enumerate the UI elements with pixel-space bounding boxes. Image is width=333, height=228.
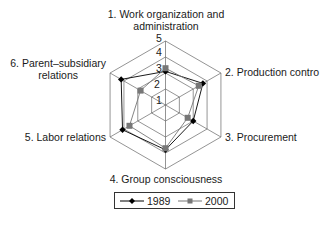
diamond-marker-icon — [120, 197, 144, 205]
tick-label-3: 3 — [156, 63, 162, 74]
axis-label-line: 6. Parent–subsidiary — [10, 57, 106, 69]
axis-label-line: relations — [10, 69, 106, 81]
axis-label-line: 1. Work organization and — [95, 8, 237, 20]
legend-item-2000: 2000 — [178, 194, 228, 207]
square-marker-icon — [178, 197, 202, 205]
axis-label-procurement: 3. Procurement — [225, 131, 297, 143]
axis-label-labor-relations: 5. Labor relations — [25, 131, 106, 143]
legend-item-1989: 1989 — [120, 194, 170, 207]
axis-label-work-organization: 1. Work organization and administration — [95, 8, 237, 32]
tick-label-1: 1 — [156, 95, 162, 106]
tick-label-2: 2 — [154, 79, 160, 90]
chart-legend: 1989 2000 — [114, 192, 235, 209]
axis-label-group-consciousness: 4. Group consciousness — [95, 173, 237, 185]
legend-label: 2000 — [205, 195, 228, 207]
tick-label-4: 4 — [156, 47, 162, 58]
axis-label-parent-subsidiary: 6. Parent–subsidiary relations — [10, 57, 106, 81]
axis-label-production-control: 2. Production contro — [225, 66, 319, 78]
tick-label-5: 5 — [156, 33, 162, 44]
legend-label: 1989 — [147, 195, 170, 207]
axis-label-line: administration — [95, 20, 237, 32]
